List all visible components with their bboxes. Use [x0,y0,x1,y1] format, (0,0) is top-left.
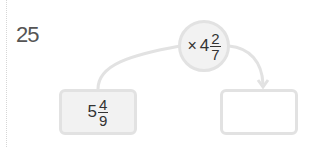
start-denominator: 9 [98,113,108,128]
outgoing-arrow [229,46,263,84]
operator-numerator: 2 [210,31,220,47]
start-mixed-number: 5 4 9 [88,97,109,128]
operator-fraction: 2 7 [210,31,220,62]
multiply-sign: × [187,37,196,55]
operator-denominator: 7 [210,47,220,62]
operator-whole: 4 [200,36,209,56]
operator-expression: × 4 2 7 [187,31,220,62]
answer-box[interactable] [220,89,298,135]
start-whole: 5 [88,102,97,122]
start-value-box: 5 4 9 [59,89,137,135]
start-fraction: 4 9 [98,97,108,128]
start-numerator: 4 [98,97,108,113]
operator-circle: × 4 2 7 [178,20,230,72]
incoming-curve [98,46,180,89]
